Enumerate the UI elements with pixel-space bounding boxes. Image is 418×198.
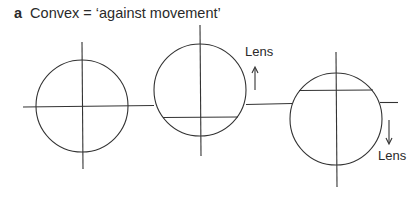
displaced-line-2 <box>163 117 238 118</box>
vertical-line-1 <box>82 42 83 169</box>
horizon-line-left <box>23 106 154 108</box>
lens-movement-diagram <box>0 0 418 198</box>
lens-up-label: Lens <box>245 44 273 59</box>
displaced-line-3 <box>299 90 373 91</box>
vertical-line-3 <box>336 52 337 187</box>
lens-down-label: Lens <box>378 148 406 163</box>
horizon-line-mid <box>246 104 292 105</box>
